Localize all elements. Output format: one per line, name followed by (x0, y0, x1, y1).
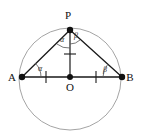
angle-arc-p-left (57, 44, 70, 48)
angle-arc-p-right (70, 40, 80, 44)
point-label-p: P (65, 9, 71, 21)
angle-label-p-right: β (73, 31, 78, 40)
geometry-canvas: P A B O α β α β (0, 0, 147, 138)
point-dot-a (19, 74, 25, 80)
point-label-a: A (8, 71, 16, 83)
point-label-b: B (126, 71, 133, 83)
point-dot-b (119, 74, 125, 80)
point-dot-p (67, 27, 73, 33)
geometry-figure: P A B O α β α β (0, 0, 147, 138)
point-label-o: O (66, 81, 74, 93)
point-dot-o (67, 74, 73, 80)
angle-label-b: β (102, 65, 107, 74)
angle-label-a: α (38, 64, 43, 73)
